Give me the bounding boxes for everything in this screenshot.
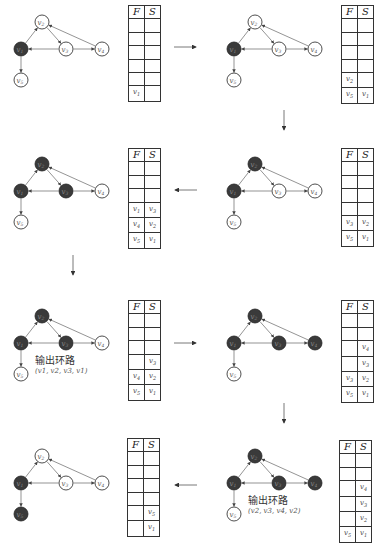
flow-arrows xyxy=(0,0,385,546)
